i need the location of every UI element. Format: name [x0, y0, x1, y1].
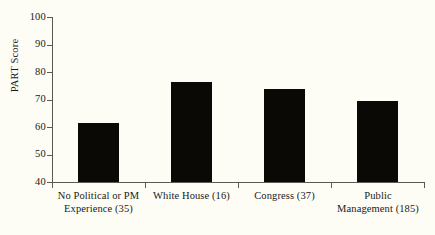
y-axis-line	[52, 17, 53, 183]
x-axis-label-0-line2: Experience (35)	[52, 203, 145, 216]
bar	[264, 89, 305, 183]
bar	[357, 101, 398, 182]
y-axis-tick	[47, 100, 52, 101]
y-axis-tick	[47, 17, 52, 18]
x-axis-tick	[145, 183, 146, 188]
y-axis-tick-label: 50	[2, 149, 46, 160]
y-axis-tick-label: 80	[2, 67, 46, 78]
x-axis-label-3-line1: Public	[331, 190, 425, 203]
y-axis-tick	[47, 155, 52, 156]
y-axis-tick	[47, 72, 52, 73]
x-axis-label-2-line1: Congress (37)	[238, 190, 331, 203]
x-axis-label-0: No Political or PM Experience (35)	[52, 190, 145, 215]
y-axis-tick-label: 70	[2, 94, 46, 105]
y-axis-tick	[47, 45, 52, 46]
bar	[171, 82, 212, 182]
y-axis-tick	[47, 127, 52, 128]
bar-chart: PART Score 405060708090100 No Political …	[0, 0, 435, 235]
bar	[78, 123, 119, 182]
x-axis-tick	[331, 183, 332, 188]
x-axis-label-1: White House (16)	[145, 190, 238, 203]
y-axis-tick-label: 40	[2, 177, 46, 188]
y-axis-tick-label: 90	[2, 39, 46, 50]
x-axis-label-1-line1: White House (16)	[145, 190, 238, 203]
y-axis-tick-label: 100	[2, 12, 46, 23]
x-axis-tick	[238, 183, 239, 188]
x-axis-label-2: Congress (37)	[238, 190, 331, 203]
x-axis-tick	[424, 183, 425, 188]
y-axis-tick-label: 60	[2, 122, 46, 133]
x-axis-tick	[52, 183, 53, 188]
x-axis-label-3: Public Management (185)	[331, 190, 425, 215]
x-axis-label-3-line2: Management (185)	[331, 203, 425, 216]
x-axis-label-0-line1: No Political or PM	[52, 190, 145, 203]
